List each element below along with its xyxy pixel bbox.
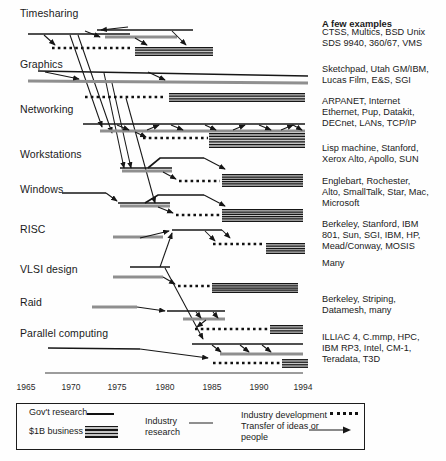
billion-business-track bbox=[169, 93, 305, 102]
axis-year-1970: 1970 bbox=[62, 382, 81, 392]
legend: Gov't research $1B business Industry res… bbox=[16, 403, 365, 450]
axis-year-1975: 1975 bbox=[108, 382, 127, 392]
category-label-graphics: Graphics bbox=[20, 58, 63, 70]
transfer-arrow bbox=[106, 193, 117, 201]
transfer-arrow bbox=[197, 320, 206, 327]
examples-raid: Berkeley, Striping,Datamesh, many bbox=[322, 294, 396, 316]
tire-tracks-figure: A few examples TimesharingCTSS, Multics,… bbox=[0, 0, 446, 461]
govt-research-line-sample bbox=[87, 413, 114, 415]
examples-workstations: Lisp machine, Stanford,Xerox Alto, Apoll… bbox=[322, 143, 419, 165]
billion-business-track bbox=[266, 243, 305, 254]
axis-year-1965: 1965 bbox=[17, 382, 36, 392]
transfer-arrow bbox=[45, 72, 79, 79]
billion-business-track bbox=[282, 359, 308, 368]
transfer-arrow bbox=[171, 125, 183, 130]
transfer-arrow bbox=[204, 158, 225, 169]
examples-line: Datamesh, many bbox=[322, 305, 396, 316]
transfer-arrow bbox=[196, 312, 201, 318]
billion-business-track bbox=[135, 47, 213, 56]
category-label-windows: Windows bbox=[20, 183, 63, 195]
transfer-arrow bbox=[78, 35, 112, 133]
transfer-arrow bbox=[233, 125, 245, 130]
industry-development-line-sample bbox=[330, 412, 358, 415]
category-label-raid: Raid bbox=[20, 296, 42, 308]
examples-line: Englebart, Rochester, bbox=[322, 176, 429, 187]
category-label-timesharing: Timesharing bbox=[20, 7, 78, 19]
billion-business-track bbox=[212, 283, 298, 293]
examples-line: SDS 9940, 360/67, VMS bbox=[322, 38, 425, 49]
transfer-arrow-sample bbox=[307, 425, 353, 435]
legend-label-govt-research: Gov't research bbox=[29, 407, 87, 418]
examples-line: Many bbox=[322, 258, 344, 269]
examples-line: Xerox Alto, Apollo, SUN bbox=[322, 154, 419, 165]
transfer-arrow bbox=[281, 125, 293, 130]
govt-research-line bbox=[148, 158, 204, 168]
govt-research-line bbox=[48, 348, 140, 349]
industry-research-line bbox=[28, 81, 308, 83]
transfer-arrow bbox=[222, 230, 230, 238]
examples-line: Sketchpad, Utah GM/IBM, bbox=[322, 64, 429, 75]
transfer-arrow bbox=[213, 312, 218, 318]
examples-vlsi-design: Many bbox=[322, 258, 344, 269]
category-label-networking: Networking bbox=[20, 103, 74, 115]
industry-research-line-sample bbox=[189, 422, 213, 424]
category-label-risc: RISC bbox=[20, 223, 46, 235]
examples-graphics: Sketchpad, Utah GM/IBM,Lucas Film, E&S, … bbox=[322, 64, 429, 86]
examples-line: Mead/Conway, MOSIS bbox=[322, 241, 420, 252]
category-label-workstations: Workstations bbox=[20, 148, 82, 160]
legend-label-industry-research: Industry research bbox=[145, 416, 195, 437]
govt-research-line bbox=[38, 71, 308, 76]
transfer-arrow bbox=[158, 207, 173, 213]
transfer-arrow bbox=[205, 125, 216, 130]
billion-business-track bbox=[209, 133, 305, 148]
examples-line: CTSS, Multics, BSD Unix bbox=[322, 27, 425, 38]
transfer-arrow bbox=[147, 125, 159, 130]
examples-timesharing: CTSS, Multics, BSD UnixSDS 9940, 360/67,… bbox=[322, 27, 425, 49]
axis-year-1980: 1980 bbox=[156, 382, 175, 392]
examples-line: Alto, SmallTalk, Star, Mac, bbox=[322, 187, 429, 198]
segment-layer bbox=[28, 27, 308, 373]
transfer-arrow bbox=[259, 125, 271, 130]
examples-windows: Englebart, Rochester,Alto, SmallTalk, St… bbox=[322, 176, 429, 208]
examples-networking: ARPANET, InternetEthernet, Pup, Datakit,… bbox=[322, 96, 416, 128]
examples-line: ARPANET, Internet bbox=[322, 96, 416, 107]
billion-business-track-sample bbox=[85, 426, 118, 438]
examples-line: Berkeley, Striping, bbox=[322, 294, 396, 305]
transfer-arrow bbox=[137, 307, 165, 311]
examples-line: IBM RP3, Intel, CM-1, bbox=[322, 343, 420, 354]
category-label-parallel-computing: Parallel computing bbox=[20, 327, 108, 339]
examples-line: Microsoft bbox=[322, 198, 429, 209]
examples-line: ILLIAC 4, C.mmp, HPC, bbox=[322, 332, 420, 343]
transfer-arrow bbox=[117, 125, 129, 130]
transfer-arrow bbox=[262, 345, 271, 352]
examples-line: Lisp machine, Stanford, bbox=[322, 143, 419, 154]
transfer-arrow bbox=[240, 345, 249, 352]
transfer-arrow bbox=[140, 349, 208, 358]
transfer-arrow bbox=[163, 172, 176, 179]
examples-line: Teradata, T3D bbox=[322, 354, 420, 365]
transfer-arrow bbox=[126, 98, 155, 203]
category-label-vlsi-design: VLSI design bbox=[20, 263, 78, 275]
transfer-arrow bbox=[44, 35, 55, 45]
examples-parallel-computing: ILLIAC 4, C.mmp, HPC,IBM RP3, Intel, CM-… bbox=[322, 332, 420, 364]
billion-business-track bbox=[222, 209, 303, 222]
billion-business-track bbox=[270, 325, 303, 334]
examples-risc: Berkeley, Stanford, IBM801, Sun, SGI, IB… bbox=[322, 219, 420, 251]
axis-year-1990: 1990 bbox=[250, 382, 269, 392]
examples-line: Lucas Film, E&S, SGI bbox=[322, 75, 429, 86]
legend-label-industry-development: Industry development bbox=[241, 410, 327, 421]
examples-line: Berkeley, Stanford, IBM bbox=[322, 219, 420, 230]
examples-line: 801, Sun, SGI, IBM, HP, bbox=[322, 230, 420, 241]
billion-business-track bbox=[222, 174, 303, 187]
transfer-arrow bbox=[135, 38, 147, 45]
examples-line: DECnet, LANs, TCP/IP bbox=[322, 118, 416, 129]
transfer-arrow bbox=[293, 125, 302, 130]
transfer-arrow bbox=[212, 345, 221, 352]
transfer-arrow bbox=[205, 231, 215, 241]
transfer-arrow bbox=[204, 195, 225, 206]
examples-line: Ethernet, Pup, Datakit, bbox=[322, 107, 416, 118]
axis-year-1994: 1994 bbox=[294, 382, 313, 392]
transfer-arrow bbox=[104, 73, 124, 168]
legend-label-billion-business: $1B business bbox=[29, 426, 83, 437]
axis-year-1985: 1985 bbox=[203, 382, 222, 392]
